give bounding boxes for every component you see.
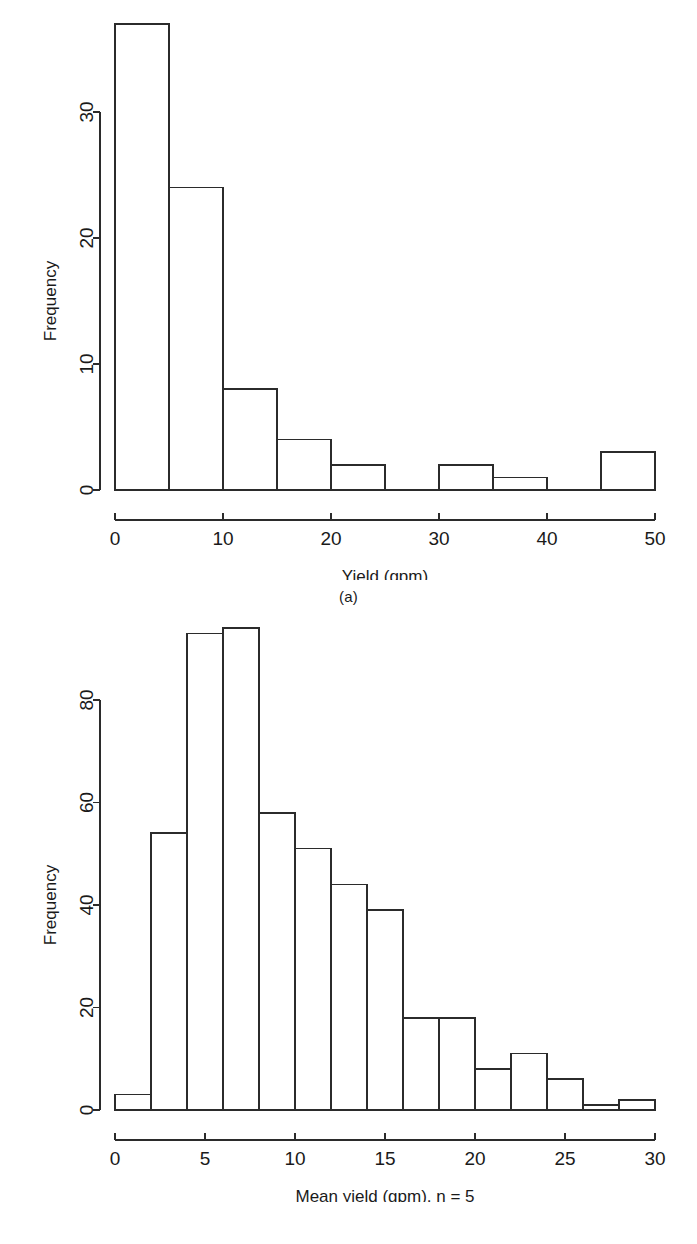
- histogram-chart-a: 01020304050Yield (gpm)0102030Frequency: [0, 0, 697, 580]
- y-axis-tick-label: 30: [76, 101, 97, 122]
- histogram-bar: [403, 1018, 439, 1110]
- y-axis-tick-label: 80: [76, 689, 97, 710]
- figure-container: 01020304050Yield (gpm)0102030Frequency (…: [0, 0, 697, 1244]
- y-axis-tick-label: 20: [76, 997, 97, 1018]
- histogram-panel-a: 01020304050Yield (gpm)0102030Frequency (…: [0, 0, 697, 622]
- x-axis: 051015202530Mean yield (gpm), n = 5: [110, 1133, 666, 1202]
- histogram-bar: [511, 1054, 547, 1110]
- histogram-bar: [547, 1079, 583, 1110]
- y-axis-tick-label: 40: [76, 894, 97, 915]
- histogram-bar: [169, 188, 223, 490]
- x-axis-tick-label: 15: [374, 1148, 395, 1169]
- histogram-bar: [475, 1069, 511, 1110]
- x-axis-tick-label: 0: [110, 1148, 121, 1169]
- histogram-bar: [259, 813, 295, 1110]
- y-axis: 0102030Frequency: [41, 101, 101, 495]
- bars-group: [115, 24, 655, 490]
- x-axis-tick-label: 40: [536, 528, 557, 549]
- histogram-bar: [601, 452, 655, 490]
- x-axis-tick-label: 0: [110, 528, 121, 549]
- histogram-bar: [115, 1095, 151, 1110]
- histogram-bar: [151, 833, 187, 1110]
- histogram-bar: [277, 440, 331, 490]
- x-axis-title: Yield (gpm): [342, 567, 428, 580]
- x-axis-tick-label: 30: [644, 1148, 665, 1169]
- histogram-bar: [439, 1018, 475, 1110]
- y-axis-tick-label: 60: [76, 792, 97, 813]
- histogram-bar: [439, 465, 493, 490]
- histogram-bar: [331, 885, 367, 1111]
- histogram-bar: [331, 465, 385, 490]
- x-axis-tick-label: 20: [464, 1148, 485, 1169]
- x-axis-title: Mean yield (gpm), n = 5: [295, 1187, 474, 1202]
- y-axis-tick-label: 0: [76, 485, 97, 496]
- x-axis-tick-label: 10: [212, 528, 233, 549]
- histogram-bar: [619, 1100, 655, 1110]
- histogram-bar: [367, 910, 403, 1110]
- y-axis-tick-label: 10: [76, 353, 97, 374]
- x-axis-tick-label: 30: [428, 528, 449, 549]
- histogram-bar: [187, 633, 223, 1110]
- x-axis: 01020304050Yield (gpm): [110, 513, 666, 580]
- y-axis-tick-label: 0: [76, 1105, 97, 1116]
- histogram-bar: [295, 849, 331, 1110]
- histogram-bar: [115, 24, 169, 490]
- y-axis-tick-label: 20: [76, 227, 97, 248]
- histogram-bar: [493, 477, 547, 490]
- y-axis-title: Frequency: [41, 260, 60, 341]
- histogram-bar: [223, 628, 259, 1110]
- panel-caption-a: (a): [0, 588, 697, 605]
- histogram-bar: [223, 389, 277, 490]
- x-axis-tick-label: 5: [200, 1148, 211, 1169]
- x-axis-tick-label: 50: [644, 528, 665, 549]
- y-axis: 020406080Frequency: [41, 689, 101, 1115]
- x-axis-tick-label: 25: [554, 1148, 575, 1169]
- bars-group: [115, 628, 655, 1110]
- x-axis-tick-label: 10: [284, 1148, 305, 1169]
- histogram-panel-b: 051015202530Mean yield (gpm), n = 502040…: [0, 622, 697, 1244]
- histogram-chart-b: 051015202530Mean yield (gpm), n = 502040…: [0, 622, 697, 1202]
- x-axis-tick-label: 20: [320, 528, 341, 549]
- y-axis-title: Frequency: [41, 864, 60, 945]
